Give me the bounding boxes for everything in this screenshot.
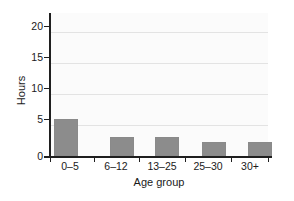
gridline-10	[50, 94, 268, 95]
y-tick-label-15: 15	[31, 52, 43, 63]
x-tick-label-4: 30+	[226, 161, 274, 172]
x-axis-line	[44, 156, 272, 158]
gridline-15	[50, 63, 268, 64]
gridline-5	[50, 125, 268, 126]
x-tick-label-0: 0–5	[46, 161, 94, 172]
y-tick-20	[44, 26, 50, 27]
y-axis-line	[49, 13, 51, 157]
y-axis-title: Hours	[16, 61, 27, 121]
bar-1	[110, 137, 134, 156]
x-axis-title: Age group	[50, 177, 268, 188]
y-tick-label-10: 10	[31, 83, 43, 94]
y-tick-label-0: 0	[37, 151, 43, 162]
bar-4	[248, 142, 272, 156]
bar-3	[202, 142, 226, 156]
y-tick-label-5: 5	[37, 114, 43, 125]
x-tick-label-1: 6–12	[92, 161, 140, 172]
y-tick-5	[44, 119, 50, 120]
x-tick-label-3: 25–30	[184, 161, 232, 172]
plot-area	[50, 13, 268, 156]
x-tick-label-2: 13–25	[138, 161, 186, 172]
bar-chart: 20 15 10 5 0 0–5 6–12 13–25 25–30 30+ Ho…	[0, 0, 294, 201]
y-tick-15	[44, 57, 50, 58]
bar-0	[54, 119, 78, 156]
y-tick-10	[44, 88, 50, 89]
gridline-20	[50, 32, 268, 33]
bar-2	[155, 137, 179, 156]
y-tick-label-20: 20	[31, 21, 43, 32]
